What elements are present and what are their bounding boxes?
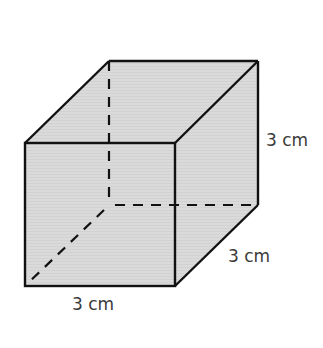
- cube-diagram: 3 cm 3 cm 3 cm: [0, 0, 323, 348]
- width-label: 3 cm: [72, 294, 114, 314]
- depth-label: 3 cm: [228, 246, 270, 266]
- height-label: 3 cm: [266, 130, 308, 150]
